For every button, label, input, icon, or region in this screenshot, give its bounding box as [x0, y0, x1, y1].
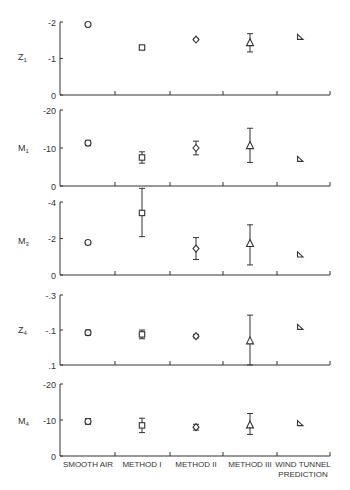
y-tick-label: -2: [48, 18, 56, 28]
y-tick-label: -1: [48, 54, 56, 64]
marker-right-triangle: [298, 421, 304, 426]
marker-right-triangle: [298, 34, 304, 39]
y-tick-label: 0: [51, 182, 56, 192]
category-label: METHOD I: [122, 460, 161, 469]
y-axis-label: Z1: [18, 52, 28, 63]
marker-diamond: [193, 145, 199, 152]
y-axis-label: M4: [18, 416, 30, 427]
marker-triangle: [247, 421, 254, 428]
marker-triangle: [247, 39, 254, 46]
y-axis-label: M1: [18, 143, 30, 154]
y-axis-label: Z4: [18, 325, 28, 336]
category-label: WIND TUNNEL: [275, 460, 331, 469]
y-tick-label: -4: [48, 198, 56, 208]
y-tick-label: 0: [51, 271, 56, 281]
marker-diamond: [193, 245, 199, 252]
marker-square: [139, 210, 144, 215]
marker-square: [139, 155, 144, 160]
marker-circle: [85, 418, 91, 424]
y-tick-label: 0: [51, 452, 56, 462]
marker-square: [139, 45, 144, 50]
marker-circle: [85, 330, 91, 336]
panel-4: .1-.1-.3Z4: [18, 291, 330, 371]
multi-panel-chart: 0-1-2Z10-10-20M10-2-4M3.1-.1-.3Z40-10-20…: [0, 0, 350, 490]
marker-right-triangle: [298, 252, 304, 257]
category-label: SMOOTH AIR: [63, 460, 113, 469]
marker-right-triangle: [298, 324, 304, 329]
marker-right-triangle: [298, 156, 304, 161]
marker-diamond: [193, 36, 199, 43]
panel-3: 0-2-4M3: [18, 188, 330, 280]
y-tick-label: 0: [51, 91, 56, 101]
marker-square: [139, 423, 144, 428]
y-axis-label: M3: [18, 236, 30, 247]
marker-square: [139, 332, 144, 337]
marker-circle: [85, 22, 91, 28]
y-tick-label: -20: [43, 380, 56, 390]
marker-triangle: [247, 142, 254, 149]
category-label: PREDICTION: [278, 470, 328, 479]
panel-1: 0-1-2Z1: [18, 18, 330, 101]
y-tick-label: -20: [43, 106, 56, 116]
y-tick-label: .1: [48, 361, 56, 371]
y-tick-label: -10: [43, 144, 56, 154]
panel-5: 0-10-20M4: [18, 380, 330, 462]
panel-2: 0-10-20M1: [18, 106, 330, 192]
marker-diamond: [193, 333, 199, 340]
marker-circle: [85, 140, 91, 146]
marker-circle: [85, 240, 91, 246]
category-label: METHOD II: [175, 460, 216, 469]
marker-triangle: [247, 337, 254, 344]
marker-triangle: [247, 239, 254, 246]
category-label: METHOD III: [228, 460, 272, 469]
y-tick-label: -.1: [45, 326, 56, 336]
y-tick-label: -10: [43, 416, 56, 426]
y-tick-label: -2: [48, 234, 56, 244]
y-tick-label: -.3: [45, 291, 56, 301]
